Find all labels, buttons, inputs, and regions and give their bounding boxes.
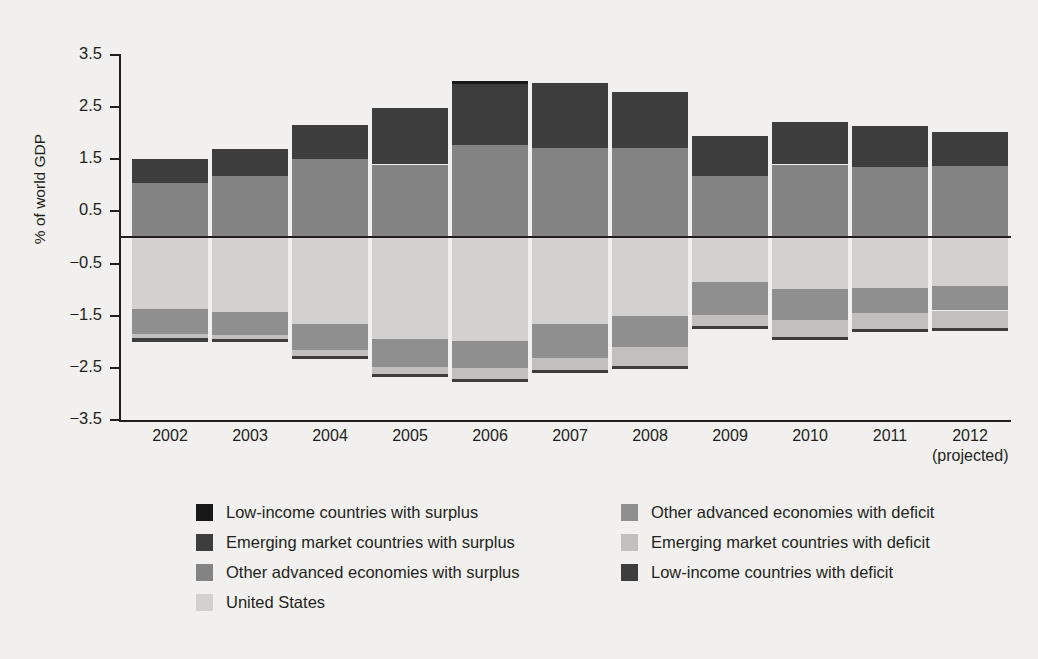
y-axis-tick	[110, 419, 121, 421]
bar-segment-other-advanced-surplus[interactable]	[212, 176, 288, 238]
bar-segment-emerging-surplus[interactable]	[692, 136, 768, 176]
x-axis-year: 2008	[632, 427, 668, 444]
bar-segment-emerging-surplus[interactable]	[292, 125, 368, 159]
bar-segment-emerging-deficit[interactable]	[932, 311, 1008, 328]
bar-segment-united-states[interactable]	[132, 238, 208, 310]
x-axis-tick-label: 2005	[372, 427, 448, 445]
bar-segment-other-advanced-surplus[interactable]	[372, 165, 448, 238]
y-axis-tick	[110, 158, 121, 160]
bar-segment-other-advanced-surplus[interactable]	[932, 166, 1008, 238]
x-axis-tick-label: 2006	[452, 427, 528, 445]
y-axis-tick-label: −2.5	[44, 357, 102, 376]
legend-item[interactable]: Other advanced economies with surplus	[196, 557, 520, 587]
x-axis-year-note: (projected)	[932, 447, 1008, 465]
bar-segment-emerging-deficit[interactable]	[772, 320, 848, 337]
bar-segment-united-states[interactable]	[612, 238, 688, 316]
bar-segment-low-income-deficit[interactable]	[292, 356, 368, 359]
x-axis-tick-label: 2009	[692, 427, 768, 445]
bar-segment-united-states[interactable]	[532, 238, 608, 325]
bar-segment-other-advanced-surplus[interactable]	[532, 148, 608, 237]
bar-segment-other-advanced-deficit[interactable]	[932, 286, 1008, 311]
legend-column-right: Other advanced economies with deficitEme…	[621, 497, 934, 587]
bar-segment-other-advanced-deficit[interactable]	[772, 289, 848, 320]
y-axis-tick-label: 1.5	[44, 148, 102, 167]
bar-segment-emerging-surplus[interactable]	[772, 122, 848, 165]
legend-column-left: Low-income countries with surplusEmergin…	[196, 497, 520, 617]
bar-segment-emerging-deficit[interactable]	[692, 315, 768, 325]
bar-segment-emerging-surplus[interactable]	[612, 92, 688, 148]
bar-segment-united-states[interactable]	[372, 238, 448, 340]
bar-segment-emerging-deficit[interactable]	[372, 367, 448, 374]
x-axis-year: 2011	[873, 427, 907, 444]
y-axis-tick	[110, 367, 121, 369]
bar-segment-low-income-deficit[interactable]	[452, 379, 528, 382]
legend-item[interactable]: Other advanced economies with deficit	[621, 497, 934, 527]
bar-segment-low-income-deficit[interactable]	[212, 339, 288, 342]
bar-segment-other-advanced-surplus[interactable]	[452, 145, 528, 238]
bar-segment-low-income-surplus[interactable]	[452, 81, 528, 84]
y-axis-tick	[110, 210, 121, 212]
bar-segment-low-income-deficit[interactable]	[372, 374, 448, 377]
bar-segment-emerging-deficit[interactable]	[452, 368, 528, 379]
bar-segment-other-advanced-deficit[interactable]	[212, 312, 288, 335]
legend-item[interactable]: Low-income countries with surplus	[196, 497, 520, 527]
legend-swatch-icon	[621, 504, 638, 521]
bar-segment-other-advanced-surplus[interactable]	[692, 176, 768, 238]
bar-segment-emerging-surplus[interactable]	[532, 83, 608, 148]
bar-segment-low-income-deficit[interactable]	[532, 370, 608, 373]
y-axis-tick-label: −3.5	[44, 409, 102, 428]
bar-segment-other-advanced-deficit[interactable]	[292, 324, 368, 350]
bar-segment-other-advanced-surplus[interactable]	[132, 183, 208, 237]
legend-label: United States	[226, 594, 325, 611]
bar-segment-emerging-surplus[interactable]	[932, 132, 1008, 166]
legend-item[interactable]: Emerging market countries with deficit	[621, 527, 934, 557]
bar-segment-other-advanced-deficit[interactable]	[372, 339, 448, 367]
bar-segment-emerging-surplus[interactable]	[132, 159, 208, 183]
bar-segment-emerging-surplus[interactable]	[372, 108, 448, 164]
x-axis-tick-label: 2003	[212, 427, 288, 445]
bar-segment-other-advanced-surplus[interactable]	[292, 159, 368, 237]
bar-segment-other-advanced-deficit[interactable]	[612, 316, 688, 347]
chart-legend: Low-income countries with surplusEmergin…	[0, 497, 1038, 607]
bar-segment-emerging-surplus[interactable]	[212, 149, 288, 176]
bar-segment-united-states[interactable]	[212, 238, 288, 312]
bar-segment-emerging-deficit[interactable]	[532, 358, 608, 369]
legend-item[interactable]: Low-income countries with deficit	[621, 557, 934, 587]
bar-segment-united-states[interactable]	[692, 238, 768, 283]
bar-segment-other-advanced-surplus[interactable]	[612, 148, 688, 238]
bar-segment-other-advanced-deficit[interactable]	[532, 324, 608, 358]
legend-swatch-icon	[196, 564, 213, 581]
bar-segment-emerging-deficit[interactable]	[852, 313, 928, 329]
legend-label: Other advanced economies with surplus	[226, 564, 520, 581]
y-axis-tick-label: 2.5	[44, 96, 102, 115]
legend-item[interactable]: Emerging market countries with surplus	[196, 527, 520, 557]
zero-reference-line	[119, 236, 1011, 238]
bar-segment-emerging-deficit[interactable]	[612, 347, 688, 366]
legend-label: Low-income countries with deficit	[651, 564, 893, 581]
bar-segment-low-income-deficit[interactable]	[772, 337, 848, 340]
bar-segment-united-states[interactable]	[932, 238, 1008, 286]
bar-segment-low-income-deficit[interactable]	[932, 328, 1008, 331]
bar-segment-low-income-deficit[interactable]	[852, 329, 928, 332]
bar-segment-other-advanced-deficit[interactable]	[132, 309, 208, 334]
x-axis-year: 2004	[312, 427, 348, 444]
bar-segment-united-states[interactable]	[852, 238, 928, 289]
bar-segment-other-advanced-deficit[interactable]	[852, 288, 928, 313]
bar-segment-low-income-deficit[interactable]	[132, 338, 208, 342]
bar-segment-emerging-surplus[interactable]	[452, 84, 528, 144]
x-axis-tick-label: 2008	[612, 427, 688, 445]
y-axis-tick-label: 0.5	[44, 200, 102, 219]
bar-segment-united-states[interactable]	[452, 238, 528, 341]
bar-segment-united-states[interactable]	[772, 238, 848, 289]
bar-segment-other-advanced-deficit[interactable]	[452, 341, 528, 368]
bar-segment-low-income-deficit[interactable]	[612, 366, 688, 369]
bar-segment-other-advanced-surplus[interactable]	[772, 165, 848, 238]
bar-segment-low-income-deficit[interactable]	[692, 326, 768, 329]
bar-segment-emerging-surplus[interactable]	[852, 126, 928, 166]
legend-item[interactable]: United States	[196, 587, 520, 617]
x-axis-year: 2007	[552, 427, 588, 444]
bar-segment-united-states[interactable]	[292, 238, 368, 325]
bar-segment-other-advanced-deficit[interactable]	[692, 282, 768, 315]
x-axis-tick-label: 2012(projected)	[932, 427, 1008, 465]
bar-segment-other-advanced-surplus[interactable]	[852, 167, 928, 238]
